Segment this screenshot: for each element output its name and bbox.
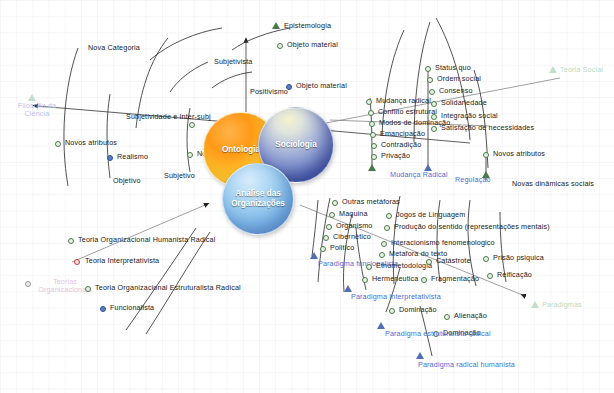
node-label-prisao-psiquica: Prisão psiquica bbox=[493, 254, 544, 262]
axis-label-paradigma-interpretativista: Paradigma Interpretativista bbox=[351, 293, 441, 301]
node-objeto-material-blue bbox=[286, 84, 292, 90]
node-label-politico: Politico bbox=[330, 244, 354, 252]
node-label-emancipacao: Emancipação bbox=[380, 130, 425, 138]
node-label-interacionismo-fenomenologico: Interacionismo fenomenologico bbox=[391, 239, 495, 247]
node-label-funcionalista: Funcionalista bbox=[110, 304, 154, 312]
node-label-cibernetico: Cibernético bbox=[333, 233, 371, 241]
axis-label-epistemologia: Epistemologia bbox=[284, 22, 331, 30]
axis-label-mudanca-radical: Mudança Radical bbox=[390, 171, 448, 179]
teoria-social-triangle-icon bbox=[549, 66, 557, 73]
paradigma-radical-humanista-triangle-icon bbox=[416, 352, 424, 359]
node-teoria-organizacional-humanista-radical bbox=[68, 238, 74, 244]
node-consenso bbox=[429, 89, 435, 95]
node-label-conflito-estrutural: Conflito estrutural bbox=[378, 108, 437, 116]
node-catastrote bbox=[426, 259, 432, 265]
paradigma-interpretativista-triangle-icon bbox=[344, 285, 352, 292]
node-label-mudanca-radical: Mudança radical bbox=[376, 97, 431, 105]
mudanca-radical-triangle-icon bbox=[368, 164, 376, 171]
node-reificacao bbox=[487, 273, 493, 279]
node-label-satisfacao-de-necessidades: Satisfação de necessidades bbox=[441, 124, 534, 132]
axis-label-teoria-social: Teoria Social bbox=[560, 66, 603, 74]
node-label-solidariedade: Solidariedade bbox=[441, 99, 487, 107]
node-privacao bbox=[371, 154, 377, 160]
node-alienacao bbox=[444, 314, 450, 320]
axis-label-filosofia-da-ciencia: Filosofia da Ciência bbox=[6, 102, 68, 119]
node-label-fragmentacao: Fragmentação bbox=[431, 275, 479, 283]
node-label-objeto-material-epistemologia: Objeto material bbox=[287, 41, 338, 49]
node-label-novas-dinamicas-sociais: Novas dinâmicas sociais bbox=[512, 180, 594, 188]
node-jogos-de-linguagem bbox=[386, 213, 392, 219]
node-label-nova-categoria: Nova Categoria bbox=[88, 44, 140, 52]
node-label-jogos-de-linguagem: Jogos de Linguagem bbox=[396, 211, 465, 219]
node-funcionalista bbox=[100, 306, 106, 312]
axis-label-paradigma-estruturalista-radical: Paradigma estruturalista radical bbox=[385, 330, 491, 338]
node-label-privacao: Privação bbox=[381, 152, 410, 160]
node-hermeneutica bbox=[362, 277, 368, 283]
novas-dinamicas-sociais-triangle-icon bbox=[482, 171, 490, 178]
node-prisao-psiquica bbox=[483, 256, 489, 262]
node-label-modos-de-dominacao: Modos de dominação bbox=[379, 119, 450, 127]
axis-label-paradigmas: Paradigmas bbox=[542, 301, 582, 309]
node-label-teoria-interpretativista: Teoria Interpretativista bbox=[85, 257, 159, 265]
node-status-quo bbox=[425, 66, 431, 72]
teorias-organizacionais-node bbox=[25, 281, 31, 287]
node-etnometodologia bbox=[366, 264, 372, 270]
node-emancipacao bbox=[370, 132, 376, 138]
node-novos-atributos-right bbox=[483, 152, 489, 158]
node-outras-metaforas bbox=[332, 200, 338, 206]
node-label-producao-do-sentido: Produção do sentido (representações ment… bbox=[394, 223, 550, 231]
node-label-status-quo: Status quo bbox=[435, 64, 471, 72]
node-realismo bbox=[107, 155, 113, 161]
filosofia-da-ciencia-triangle-icon bbox=[28, 94, 36, 101]
node-politico bbox=[320, 246, 326, 252]
node-objeto-material-green bbox=[277, 43, 283, 49]
node-label-novos-atributos-right: Novos atributos bbox=[493, 150, 545, 158]
node-nominalismo bbox=[187, 152, 193, 158]
node-conflito-estrutural bbox=[368, 110, 374, 116]
node-label-subjetividade-intersubj: Subjetividade e Inter-subj bbox=[126, 113, 211, 121]
node-label-maquina: Maquina bbox=[339, 210, 368, 218]
node-label-novos-atributos-left: Novos atributos bbox=[65, 139, 117, 147]
node-label-objeto-material-positivismo: Objeto material bbox=[296, 82, 347, 90]
node-dominacao-1 bbox=[389, 308, 395, 314]
node-label-etnometodologia: Etnometodologia bbox=[376, 262, 432, 270]
node-novos-atributos-left bbox=[55, 141, 61, 147]
node-producao-do-sentido bbox=[384, 225, 390, 231]
node-label-contradicao: Contradição bbox=[381, 141, 421, 149]
node-label-catastrote: Catástrote bbox=[436, 257, 471, 265]
node-modos-de-dominacao bbox=[369, 121, 375, 127]
paradigma-estruturalista-radical-triangle-icon bbox=[377, 322, 385, 329]
paradigmas-triangle-icon bbox=[531, 301, 539, 308]
node-organismo bbox=[326, 224, 332, 230]
node-label-objetivo: Objetivo bbox=[113, 177, 141, 185]
node-label-reificacao: Reificação bbox=[497, 271, 532, 279]
regulacao-triangle-icon bbox=[424, 164, 432, 171]
node-label-realismo: Realismo bbox=[117, 153, 148, 161]
paradigma-funcionalista-triangle-icon bbox=[310, 252, 318, 259]
node-label-subjetivo: Subjetivo bbox=[164, 172, 195, 180]
node-label-dominacao-1: Dominação bbox=[399, 306, 437, 314]
axis-label-paradigma-radical-humanista: Paradigma radical humanista bbox=[418, 361, 515, 369]
node-label-organismo: Organismo bbox=[336, 222, 372, 230]
node-label-consenso: Consenso bbox=[439, 87, 473, 95]
node-label-outras-metaforas: Outras metáforas bbox=[342, 198, 400, 206]
diagram-canvas: Ontologia Sociologia Análise das Organiz… bbox=[0, 0, 614, 393]
node-label-alienacao: Alienação bbox=[454, 312, 487, 320]
node-label-ordem-social: Ordem social bbox=[437, 75, 481, 83]
node-subjetividade-intersubj bbox=[189, 122, 195, 128]
node-label-subjetivista: Subjetivista bbox=[214, 58, 252, 66]
node-cibernetico bbox=[323, 235, 329, 241]
node-teoria-interpretativista bbox=[74, 259, 80, 265]
node-label-hermeneutica: Hermeneutica bbox=[372, 275, 418, 283]
node-ordem-social bbox=[427, 77, 433, 83]
node-metafora-do-texto bbox=[379, 252, 385, 258]
node-label-positivismo: Positivismo bbox=[250, 88, 288, 96]
node-contradicao bbox=[371, 143, 377, 149]
epistemologia-triangle-icon bbox=[272, 22, 280, 29]
sphere-analise-label: Análise das Organizações bbox=[223, 189, 293, 208]
node-interacionismo-fenomenologico bbox=[381, 241, 387, 247]
node-mudanca-radical bbox=[366, 99, 372, 105]
diagram-linework bbox=[0, 0, 614, 393]
node-label-teoria-organizacional-estruturalista-radical: Teoria Organizacional Estruturalista Rad… bbox=[95, 284, 241, 292]
sphere-analise-das-organizacoes[interactable]: Análise das Organizações bbox=[222, 163, 294, 235]
